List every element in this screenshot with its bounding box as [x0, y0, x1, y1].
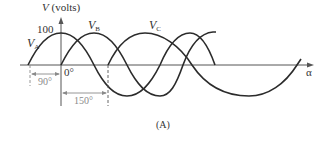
dim-90-arrow-right-icon [55, 72, 60, 76]
waveform-vb [61, 32, 216, 96]
label-vc: VC [149, 19, 161, 33]
figure-caption: (A) [156, 120, 170, 130]
y-axis-label: V (volts) [42, 2, 80, 13]
y-axis-label-var: V [42, 1, 49, 13]
y-axis-arrow-icon [59, 17, 64, 24]
dim-150-arrow-left-icon [62, 91, 67, 95]
peak-value-label: 100 [37, 24, 54, 35]
y-axis-label-unit: (volts) [51, 1, 80, 13]
dim-90-arrow-left-icon [31, 72, 36, 76]
dim-150-arrow-right-icon [102, 91, 107, 95]
label-va: VA [27, 37, 39, 51]
phase-90-label: 90° [38, 77, 52, 87]
origin-label: 0° [64, 67, 74, 78]
x-axis-label: α [306, 67, 312, 78]
label-vb: VB [88, 19, 100, 33]
phase-150-label: 150° [74, 96, 93, 106]
